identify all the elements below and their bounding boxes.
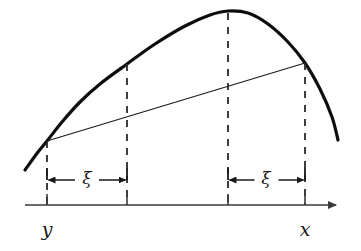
figure-container: ξ ξ y x — [0, 0, 361, 251]
chord-group — [47, 63, 305, 141]
axis-ticks-group — [47, 194, 305, 205]
figure-svg: ξ ξ y x — [0, 0, 361, 251]
concave-curve — [25, 11, 338, 170]
axis-label-y: y — [41, 218, 53, 240]
curve-group — [25, 11, 338, 170]
xi-label-left: ξ — [82, 168, 93, 188]
secant-chord-line — [47, 63, 305, 141]
xi-label-right: ξ — [261, 168, 272, 188]
axis-label-x: x — [300, 218, 311, 240]
axis-group — [25, 194, 336, 205]
